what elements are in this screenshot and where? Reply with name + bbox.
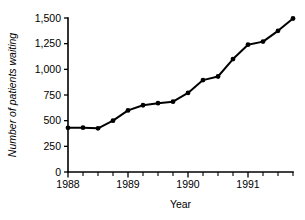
data-series-patients-waiting [66,16,296,131]
data-point [66,125,71,130]
data-point [201,78,206,83]
x-axis-title: Year [170,198,192,210]
data-point [156,101,161,106]
y-tick-label-250: 250 [43,140,61,152]
y-tick-label-1250: 1,250 [35,37,61,49]
y-axis-title: Number of patients waiting [6,33,18,157]
y-tick-label-500: 500 [43,114,61,126]
y-tick-label-0: 0 [55,166,61,178]
x-tick-label-1991: 1991 [236,178,260,190]
data-point [291,16,296,21]
x-tick-label-1989: 1989 [116,178,140,190]
data-point [141,103,146,108]
data-point [246,42,251,47]
y-tick-label-1000: 1,000 [35,63,61,75]
y-axis: 02505007501,0001,2501,500 [35,12,68,178]
x-tick-label-1990: 1990 [176,178,200,190]
axis-labels: YearNumber of patients waiting [6,33,192,210]
data-point [261,39,266,44]
data-point [171,99,176,104]
series-line-path [68,19,293,129]
data-point [126,108,131,113]
y-tick-label-1500: 1,500 [35,12,61,24]
x-tick-label-1988: 1988 [56,178,80,190]
data-point [111,118,116,123]
y-tick-label-750: 750 [43,89,61,101]
data-point [231,57,236,62]
line-chart-canvas: 02505007501,0001,2501,500 19881989199019… [0,0,305,220]
data-point [81,125,86,130]
data-point [276,28,281,33]
data-point [216,74,221,79]
chart-figure: 02505007501,0001,2501,500 19881989199019… [0,0,305,220]
data-point [186,91,191,96]
data-point [96,126,101,131]
x-axis: 1988198919901991 [56,172,293,190]
